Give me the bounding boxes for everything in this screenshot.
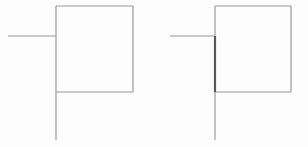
panel-left-diagram bbox=[8, 6, 133, 140]
line-diagram-figure bbox=[0, 0, 308, 147]
panel-right-diagram bbox=[170, 6, 291, 140]
diagram-canvas bbox=[0, 0, 308, 147]
